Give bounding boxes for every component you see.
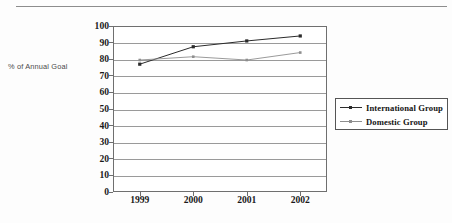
chart-figure: % of Annual Goal 0102030405060708090100 … (0, 0, 452, 223)
y-axis-tick-label: 20 (83, 154, 109, 164)
y-axis-tick-label: 70 (83, 71, 109, 81)
y-axis-tick-labels: 0102030405060708090100 (81, 26, 109, 192)
data-point-marker (299, 34, 302, 37)
y-axis-tick-label: 10 (83, 171, 109, 181)
data-point-marker (138, 59, 141, 62)
x-axis-tick-label: 2000 (184, 195, 203, 205)
data-point-marker (192, 55, 195, 58)
y-axis-tick-label: 80 (83, 54, 109, 64)
y-axis-tick-label: 100 (83, 21, 109, 31)
y-axis-tick-mark (109, 192, 113, 193)
x-axis-tick-mark (247, 192, 248, 196)
x-axis-tick-mark (193, 192, 194, 196)
x-axis-tick-mark (300, 192, 301, 196)
x-axis-tick-label: 2002 (291, 195, 310, 205)
legend-marker-icon (340, 117, 362, 127)
y-axis-tick-label: 50 (83, 104, 109, 114)
x-axis-tick-label: 2001 (237, 195, 256, 205)
y-axis-tick-mark (109, 125, 113, 126)
y-axis-tick-label: 0 (83, 187, 109, 197)
data-point-marker (299, 51, 302, 54)
data-point-marker (245, 59, 248, 62)
chart-legend: International GroupDomestic Group (335, 98, 448, 130)
y-axis-tick-mark (109, 175, 113, 176)
series-layer (113, 26, 327, 192)
data-point-marker (138, 63, 141, 66)
x-axis-tick-label: 1999 (130, 195, 149, 205)
legend-label: International Group (366, 103, 443, 113)
y-axis-tick-mark (109, 75, 113, 76)
series-line (140, 36, 301, 64)
legend-item[interactable]: Domestic Group (336, 115, 447, 129)
y-axis-tick-mark (109, 92, 113, 93)
y-axis-tick-mark (109, 42, 113, 43)
y-axis-tick-label: 30 (83, 137, 109, 147)
y-axis-tick-mark (109, 158, 113, 159)
y-axis-tick-mark (109, 142, 113, 143)
legend-marker-icon (340, 103, 362, 113)
data-point-marker (192, 45, 195, 48)
y-axis-tick-label: 90 (83, 38, 109, 48)
legend-label: Domestic Group (366, 117, 428, 127)
y-axis-tick-label: 40 (83, 121, 109, 131)
y-axis-tick-mark (109, 26, 113, 27)
data-point-marker (245, 39, 248, 42)
y-axis-tick-mark (109, 59, 113, 60)
header-divider (16, 6, 447, 7)
y-axis-tick-label: 60 (83, 88, 109, 98)
y-axis-tick-mark (109, 109, 113, 110)
x-axis-tick-mark (140, 192, 141, 196)
legend-item[interactable]: International Group (336, 101, 447, 115)
